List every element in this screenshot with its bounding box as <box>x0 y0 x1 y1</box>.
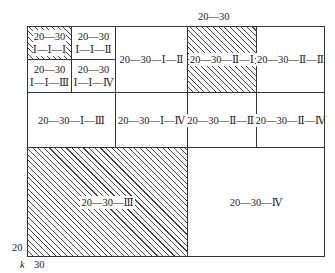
sheet-20-30-I-I-IV[interactable]: 20—30 Ⅰ—Ⅰ—Ⅳ <box>71 59 116 93</box>
sheet-20-30-I-I-II[interactable]: 20—30 Ⅰ—Ⅰ—Ⅱ <box>71 26 116 60</box>
sheet-label: 20—30—Ⅰ—Ⅲ <box>37 114 106 127</box>
sheet-20-30-I-II[interactable]: 20—30—Ⅰ—Ⅱ <box>115 26 188 93</box>
sheet-label: 20—30—Ⅱ—Ⅳ <box>254 114 326 127</box>
sheet-label: 20—30—Ⅰ—Ⅳ <box>117 114 186 127</box>
sheet-20-30-II-IV[interactable]: 20—30—Ⅱ—Ⅳ <box>256 92 325 148</box>
sheet-label-top: 20—30 <box>198 11 230 22</box>
sheet-20-30-I-I-I[interactable]: 20—30 Ⅰ—Ⅰ—Ⅰ <box>27 26 72 60</box>
sheet-20-30-IV[interactable]: 20—30—Ⅳ <box>187 147 325 257</box>
sheet-20-30-III[interactable]: 20—30—Ⅲ <box>27 147 188 257</box>
corner-k-label: k <box>20 259 25 270</box>
sheet-20-30-I-I-III[interactable]: 20—30 Ⅰ—Ⅰ—Ⅲ <box>27 59 72 93</box>
sheet-label: 20—30 Ⅰ—Ⅰ—Ⅲ <box>30 63 69 89</box>
sheet-20-30-I-III[interactable]: 20—30—Ⅰ—Ⅲ <box>27 92 116 148</box>
sheet-label: 20—30—Ⅰ—Ⅱ <box>119 53 185 66</box>
corner-x-label: 30 <box>34 259 45 270</box>
sheet-label: 20—30 Ⅰ—Ⅰ—Ⅱ <box>75 30 111 56</box>
sheet-20-30-I-IV[interactable]: 20—30—Ⅰ—Ⅳ <box>115 92 188 148</box>
sheet-label: 20—30—Ⅱ—Ⅲ <box>186 114 258 127</box>
corner-y-label: 20 <box>12 242 23 253</box>
sheet-label: 20—30—Ⅱ—Ⅱ <box>256 53 325 66</box>
sheet-label: 20—30—Ⅲ <box>80 196 134 209</box>
sheet-20-30-II-III[interactable]: 20—30—Ⅱ—Ⅲ <box>187 92 257 148</box>
sheet-20-30-II-II[interactable]: 20—30—Ⅱ—Ⅱ <box>256 26 325 93</box>
sheet-label: 20—30 Ⅰ—Ⅰ—Ⅰ <box>33 30 66 56</box>
sheet-20-30-II-I[interactable]: 20—30—Ⅱ—Ⅰ <box>187 26 257 93</box>
sheet-label: 20—30 Ⅰ—Ⅰ—Ⅳ <box>74 63 114 89</box>
sheet-label: 20—30—Ⅱ—Ⅰ <box>189 53 255 66</box>
sheet-label: 20—30—Ⅳ <box>229 196 284 209</box>
